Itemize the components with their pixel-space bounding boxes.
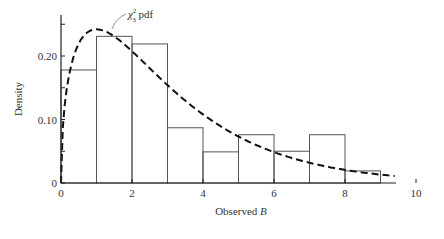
histogram-bar [132, 44, 168, 183]
x-axis-ticks: 0246810 [58, 179, 422, 199]
histogram-bar [203, 152, 239, 183]
x-tick-label: 0 [58, 187, 64, 199]
y-axis-title: Density [12, 81, 24, 116]
y-tick-label: 0.20 [38, 50, 58, 62]
histogram-bar [239, 135, 275, 183]
x-tick-label: 2 [129, 187, 135, 199]
histogram-chart: 00.100.20 0246810 Density Observed B χ23… [0, 0, 444, 239]
histogram-bars [61, 36, 381, 183]
x-tick-label: 10 [411, 187, 423, 199]
annotation-leader-line [112, 14, 126, 29]
histogram-bar [97, 36, 133, 183]
histogram-bar [61, 70, 97, 183]
y-tick-label: 0.10 [38, 114, 58, 126]
x-tick-label: 6 [271, 187, 277, 199]
histogram-bar [168, 128, 204, 183]
pdf-annotation-label: χ23 pdf [127, 7, 154, 24]
x-axis-title: Observed B [215, 205, 267, 217]
y-tick-label: 0 [52, 177, 58, 189]
histogram-bar [274, 151, 310, 183]
x-tick-label: 4 [200, 187, 206, 199]
histogram-bar [310, 135, 346, 183]
x-tick-label: 8 [342, 187, 348, 199]
